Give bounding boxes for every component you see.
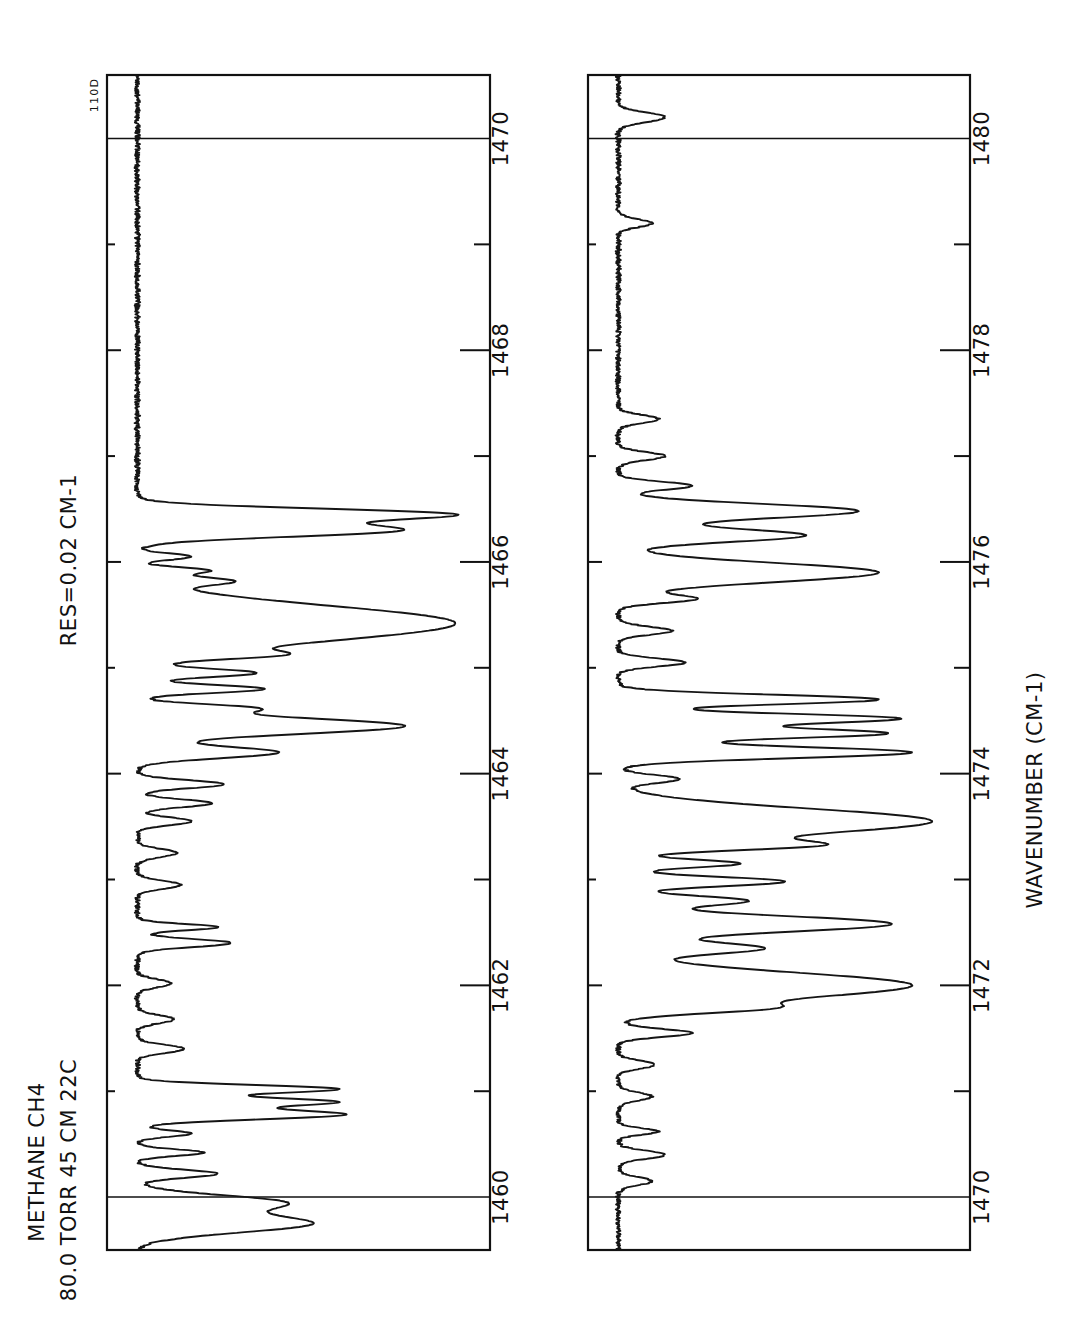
tick-label-1470: 1470 xyxy=(970,1169,994,1224)
spectrum-figure: 1460146214641466146814701470147214741476… xyxy=(0,0,1092,1322)
tick-label-1476: 1476 xyxy=(970,534,994,589)
spectrum-canvas: 1460146214641466146814701470147214741476… xyxy=(0,0,1092,1322)
tick-label-1462: 1462 xyxy=(489,958,513,1013)
tick-label-1460: 1460 xyxy=(489,1169,513,1224)
lower-panel-trace xyxy=(616,75,933,1250)
tick-label-1464: 1464 xyxy=(489,746,513,801)
resolution-label: RES=0.02 CM-1 xyxy=(57,474,81,646)
x-axis-label: WAVENUMBER (CM-1) xyxy=(1023,671,1047,908)
tick-label-1468: 1468 xyxy=(489,322,513,377)
tick-label-1470: 1470 xyxy=(489,111,513,166)
lower-panel-frame xyxy=(588,75,970,1250)
upper-panel-frame xyxy=(107,75,490,1250)
plot-id-label: 110D xyxy=(88,78,101,112)
tick-label-1480: 1480 xyxy=(970,111,994,166)
lower-panel-group: 147014721474147614781480 xyxy=(588,75,994,1250)
tick-label-1478: 1478 xyxy=(970,322,994,377)
tick-label-1472: 1472 xyxy=(970,958,994,1013)
header-line-2: 80.0 TORR 45 CM 22C xyxy=(57,1059,81,1301)
upper-panel-trace xyxy=(135,75,459,1250)
header-line-1: METHANE CH4 xyxy=(25,1082,49,1241)
tick-label-1474: 1474 xyxy=(970,746,994,801)
tick-label-1466: 1466 xyxy=(489,534,513,589)
upper-panel-group: 146014621464146614681470 xyxy=(107,75,513,1250)
